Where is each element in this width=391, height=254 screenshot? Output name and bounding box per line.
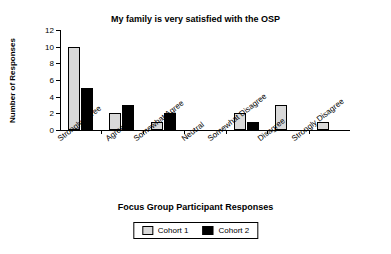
y-axis-title-text: Number of Responses bbox=[8, 38, 17, 123]
y-tick-label-2: 4 bbox=[50, 92, 54, 101]
plot-area: 0 2 4 6 8 10 12 bbox=[60, 30, 350, 130]
chart-container: My family is very satisfied with the OSP… bbox=[0, 0, 391, 254]
bar-group-neutral bbox=[184, 30, 225, 130]
x-axis-title: Focus Group Participant Responses bbox=[0, 202, 391, 212]
legend-item-cohort-1[interactable]: Cohort 1 bbox=[142, 226, 189, 235]
bar-group-agree bbox=[101, 30, 142, 130]
y-tick-label-5: 10 bbox=[45, 42, 54, 51]
bar-group-disagree bbox=[267, 30, 308, 130]
y-tick-label-3: 6 bbox=[50, 76, 54, 85]
legend-swatch-cohort-2 bbox=[203, 226, 214, 235]
legend-item-cohort-2[interactable]: Cohort 2 bbox=[203, 226, 250, 235]
x-tick-1 bbox=[101, 130, 102, 134]
y-tick-label-6: 12 bbox=[45, 26, 54, 35]
y-tick-label-1: 2 bbox=[50, 109, 54, 118]
y-axis-title: Number of Responses bbox=[6, 30, 18, 130]
legend-label-cohort-2: Cohort 2 bbox=[219, 226, 250, 235]
legend-swatch-cohort-1 bbox=[142, 226, 153, 235]
y-tick-label-4: 8 bbox=[50, 59, 54, 68]
y-tick-label-0: 0 bbox=[50, 126, 54, 135]
bar-cohort-2-somewhat-disagree bbox=[247, 122, 259, 130]
chart-legend: Cohort 1 Cohort 2 bbox=[133, 222, 258, 239]
chart-title: My family is very satisfied with the OSP bbox=[0, 14, 391, 24]
bars-layer bbox=[60, 30, 350, 130]
y-tick-0 bbox=[56, 130, 60, 131]
legend-label-cohort-1: Cohort 1 bbox=[158, 226, 189, 235]
